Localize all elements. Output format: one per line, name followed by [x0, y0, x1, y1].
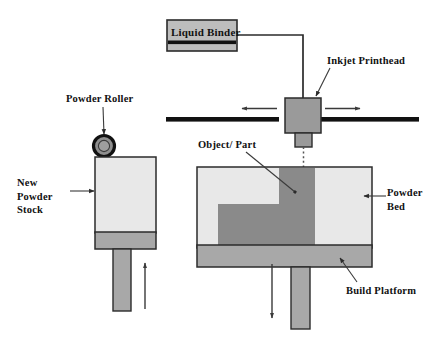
label-liquid-binder: Liquid Binder: [171, 26, 241, 39]
label-build-platform: Build Platform: [346, 285, 416, 298]
label-new-powder-stock: New Powder Stock: [17, 176, 53, 217]
printhead-body: [285, 98, 321, 133]
label-object-part: Object/ Part: [198, 139, 256, 152]
gantry-rail-left: [166, 117, 279, 122]
leader-powder-roller: [103, 107, 104, 134]
label-inkjet-printhead: Inkjet Printhead: [327, 55, 405, 68]
gantry-rail-right: [321, 117, 419, 122]
label-powder-roller: Powder Roller: [66, 93, 133, 106]
powder-roller: [94, 136, 115, 157]
build-platform-piston-rod: [291, 267, 310, 329]
powder-stock-fill: [95, 157, 156, 233]
label-powder-bed: Powder Bed: [387, 186, 423, 213]
powder-stock-piston-plate: [95, 232, 156, 249]
powder-stock-piston-rod: [113, 249, 131, 311]
inkjet-printhead-assembly: [285, 98, 321, 147]
powder-roller-hub: [98, 140, 109, 151]
liquid-binder-level-line: [168, 41, 236, 45]
binder-tube-path: [237, 35, 303, 98]
build-platform-plate: [197, 245, 372, 267]
new-powder-stock-container: [95, 157, 156, 311]
diagram-canvas: Liquid Binder Inkjet Printhead Powder Ro…: [0, 0, 446, 338]
leader-inkjet-printhead: [316, 68, 330, 96]
powder-bed-chamber: [197, 167, 372, 329]
printhead-nozzle: [295, 133, 312, 147]
binder-supply-tube: [237, 35, 303, 98]
